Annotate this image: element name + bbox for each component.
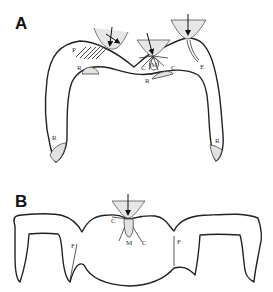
panel-a-region-r-left: [82, 67, 99, 74]
label-m: M: [151, 61, 158, 69]
label-r: R: [77, 64, 82, 72]
label-f: F: [71, 242, 75, 250]
panel-b-tooth: [14, 214, 261, 286]
label-r: R: [145, 77, 150, 85]
label-c: C: [111, 217, 116, 225]
panel-b-tooth-outline: [14, 214, 261, 286]
panel-a-region-r-bottom-left: [50, 143, 66, 162]
label-c: C: [142, 239, 147, 247]
label-f: F: [177, 238, 181, 246]
label-r: R: [215, 137, 220, 145]
panel-a-hatching: [76, 47, 107, 59]
panel-b-load-cone: [112, 194, 145, 242]
label-r: R: [52, 134, 57, 142]
label-m: M: [126, 239, 133, 247]
label-e: E: [200, 63, 204, 71]
panel-a-load-cone-right: [171, 14, 206, 62]
panel-a-region-r-bottom-right: [210, 145, 222, 161]
label-p: P: [72, 46, 76, 54]
tooth-diagram: P R R R R C M C E F C M C F: [0, 0, 273, 292]
label-c: C: [171, 64, 176, 72]
label-c: C: [141, 64, 146, 72]
